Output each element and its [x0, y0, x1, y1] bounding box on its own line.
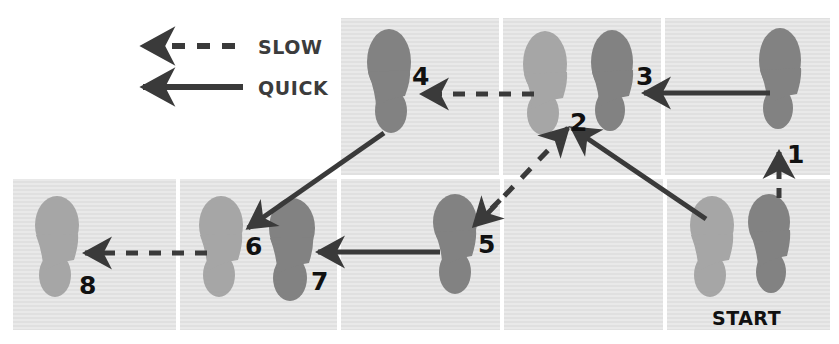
step-number-1: 1: [787, 140, 804, 169]
step-number-3: 3: [636, 62, 653, 91]
step-number-4: 4: [412, 62, 429, 91]
panel-top-right: [665, 18, 830, 175]
footstep-diagram: 1 2 3 4 5 6 7 8 START SLOW QUICK: [0, 0, 839, 344]
step-number-8: 8: [79, 271, 96, 300]
panel-top-left: [341, 18, 499, 175]
legend-quick-label: QUICK: [258, 77, 329, 99]
step-number-5: 5: [478, 230, 495, 259]
step-number-2: 2: [570, 108, 587, 137]
step-number-6: 6: [245, 232, 262, 261]
start-label: START: [712, 307, 781, 329]
step-number-7: 7: [311, 267, 328, 296]
legend-slow-label: SLOW: [258, 36, 323, 58]
